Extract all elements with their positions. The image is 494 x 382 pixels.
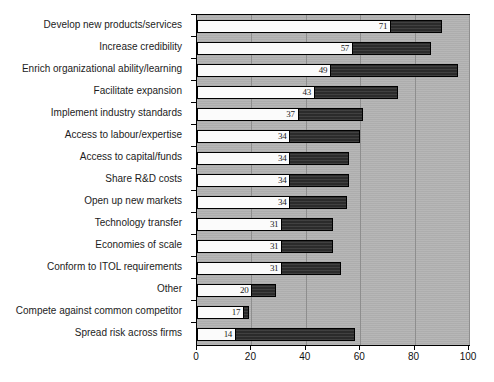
x-axis-tick: [196, 345, 197, 350]
bar-value-label: 14: [224, 330, 232, 339]
bar-segment-dark: [289, 196, 346, 209]
bar-segment-light: 17: [197, 306, 243, 319]
bar-segment-light: 71: [197, 20, 390, 33]
bar-segment-dark: [289, 152, 349, 165]
bar-row: 34: [197, 130, 360, 143]
bar-row: 31: [197, 262, 341, 275]
y-axis-label: Access to labour/expertise: [65, 130, 182, 140]
bar-segment-dark: [281, 262, 341, 275]
bar-value-label: 17: [232, 308, 240, 317]
x-axis-label: 0: [193, 352, 199, 362]
bar-segment-light: 43: [197, 86, 314, 99]
bar-value-label: 57: [341, 44, 349, 53]
bar-segment-light: 49: [197, 64, 330, 77]
bar-value-label: 20: [240, 286, 248, 295]
bar-value-label: 37: [286, 110, 294, 119]
y-axis-label: Enrich organizational ability/learning: [22, 64, 182, 74]
y-axis-label: Facilitate expansion: [94, 86, 182, 96]
bar-rows: 715749433734343434313131201714: [197, 15, 469, 345]
x-axis-tick: [250, 345, 251, 350]
bar-segment-dark: [243, 306, 248, 319]
bar-value-label: 34: [278, 132, 286, 141]
bar-segment-light: 31: [197, 262, 281, 275]
bar-segment-dark: [281, 218, 333, 231]
bar-segment-light: 57: [197, 42, 352, 55]
bar-segment-light: 34: [197, 196, 289, 209]
bar-value-label: 49: [319, 66, 327, 75]
bar-value-label: 34: [278, 176, 286, 185]
bar-value-label: 31: [270, 220, 278, 229]
plot-area: 715749433734343434313131201714: [196, 14, 470, 346]
y-axis-label: Increase credibility: [99, 42, 182, 52]
y-axis-label: Spread risk across firms: [75, 328, 182, 338]
bar-segment-dark: [298, 108, 363, 121]
y-axis-label: Technology transfer: [95, 218, 182, 228]
x-axis-tick: [414, 345, 415, 350]
bar-row: 31: [197, 218, 333, 231]
bar-segment-light: 31: [197, 218, 281, 231]
x-axis-label: 20: [245, 352, 256, 362]
bar-segment-dark: [251, 284, 275, 297]
bar-row: 34: [197, 174, 349, 187]
bar-row: 37: [197, 108, 363, 121]
bar-segment-light: 20: [197, 284, 251, 297]
bar-segment-light: 37: [197, 108, 298, 121]
bar-segment-dark: [289, 174, 349, 187]
bar-segment-dark: [289, 130, 360, 143]
bar-chart: Develop new products/servicesIncrease cr…: [0, 0, 494, 382]
x-axis-label: 80: [408, 352, 419, 362]
y-axis-label: Conform to ITOL requirements: [47, 262, 182, 272]
y-axis-label: Access to capital/funds: [80, 152, 182, 162]
bar-row: 34: [197, 196, 347, 209]
y-axis-category-labels: Develop new products/servicesIncrease cr…: [0, 14, 190, 344]
gridline-100: [469, 15, 470, 345]
bar-value-label: 31: [270, 242, 278, 251]
y-axis-label: Compete against common competitor: [16, 306, 182, 316]
y-axis-label: Open up new markets: [84, 196, 182, 206]
bar-row: 43: [197, 86, 398, 99]
x-axis-label: 40: [299, 352, 310, 362]
y-axis-label: Economies of scale: [95, 240, 182, 250]
y-axis-label: Share R&D costs: [105, 174, 182, 184]
bar-segment-dark: [390, 20, 442, 33]
bar-segment-dark: [235, 328, 355, 341]
x-axis-label: 60: [354, 352, 365, 362]
bar-segment-dark: [330, 64, 458, 77]
x-axis-tick: [468, 345, 469, 350]
y-axis-label: Other: [157, 284, 182, 294]
y-axis-label: Implement industry standards: [51, 108, 182, 118]
bar-row: 17: [197, 306, 249, 319]
bar-segment-light: 34: [197, 130, 289, 143]
bar-row: 57: [197, 42, 431, 55]
bar-segment-light: 14: [197, 328, 235, 341]
bar-value-label: 34: [278, 154, 286, 163]
x-axis-tick: [359, 345, 360, 350]
y-axis-label: Develop new products/services: [44, 20, 182, 30]
x-axis: 020406080100: [196, 345, 468, 375]
bar-row: 49: [197, 64, 458, 77]
bar-row: 20: [197, 284, 276, 297]
bar-segment-light: 34: [197, 174, 289, 187]
bar-segment-dark: [314, 86, 398, 99]
bar-value-label: 43: [303, 88, 311, 97]
x-axis-label: 100: [460, 352, 477, 362]
bar-value-label: 34: [278, 198, 286, 207]
bar-row: 14: [197, 328, 355, 341]
bar-segment-dark: [281, 240, 333, 253]
bar-segment-dark: [352, 42, 431, 55]
bar-row: 31: [197, 240, 333, 253]
x-axis-tick: [305, 345, 306, 350]
bar-row: 71: [197, 20, 442, 33]
bar-segment-light: 34: [197, 152, 289, 165]
bar-segment-light: 31: [197, 240, 281, 253]
bar-row: 34: [197, 152, 349, 165]
bar-value-label: 71: [379, 22, 387, 31]
bar-value-label: 31: [270, 264, 278, 273]
